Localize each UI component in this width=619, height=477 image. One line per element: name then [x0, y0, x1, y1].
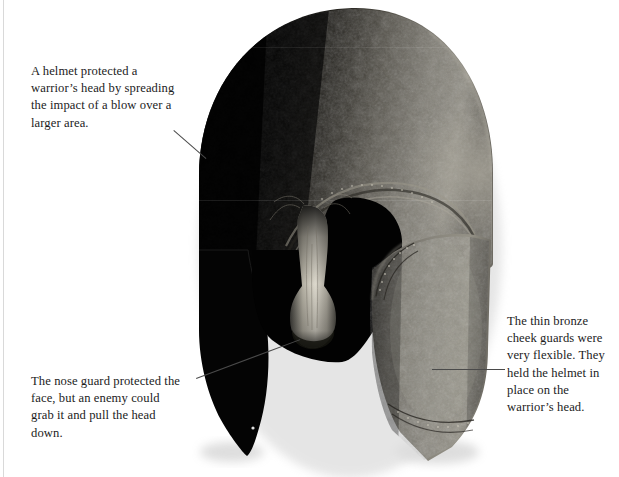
cheek-guard-rivet: [251, 426, 254, 429]
leader-line-cheek-guard: [432, 369, 505, 370]
callout-cheek-guard: The thin bronze cheek guards were very f…: [507, 313, 613, 416]
callout-nose-guard: The nose guard protected the face, but a…: [31, 373, 181, 442]
annotated-figure: A helmet protected a warrior’s head by s…: [0, 0, 619, 477]
callout-helmet-dome: A helmet protected a warrior’s head by s…: [31, 63, 183, 132]
